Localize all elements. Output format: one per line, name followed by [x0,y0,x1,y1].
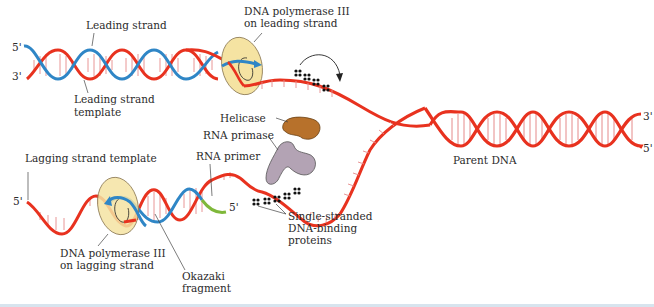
rna-primase-protein [266,142,315,185]
curved-arrow-icon [300,55,340,75]
end-parent-bottom-5prime: 5' [643,142,653,154]
label-pol-lagging-line1: DNA polymerase III [60,247,166,259]
label-leading-template-line1: Leading strand [74,93,155,105]
arrowhead-icon [336,73,343,82]
label-rna-primase: RNA primase [203,129,274,141]
dna-polymerase-leading [216,33,267,98]
label-pol-leading-line2: on leading strand [244,17,338,29]
label-pol-lagging-line2: on lagging strand [60,259,154,271]
label-pol-leading-line1: DNA polymerase III [244,5,350,17]
label-parent-dna: Parent DNA [453,154,517,166]
label-rna-primer: RNA primer [196,150,261,162]
helicase-protein [283,117,320,139]
end-leading-top-5prime: 5' [12,41,22,53]
label-okazaki-line2: fragment [182,282,232,294]
label-ssb-line1: Single-stranded [288,210,373,222]
leading-strand-helix [24,46,228,79]
end-primer-5prime: 5' [229,201,239,213]
label-lagging-template: Lagging strand template [25,152,157,164]
label-helicase: Helicase [220,112,266,124]
parent-dna-helix [425,108,641,148]
label-leading-template-line2: template [74,106,121,118]
dna-polymerase-lagging [92,173,146,238]
label-ssb-line3: proteins [288,234,332,246]
dna-replication-diagram: Leading strand Leading strand template D… [0,0,654,307]
label-leading-strand: Leading strand [86,19,167,31]
end-lagging-5prime: 5' [13,195,23,207]
label-ssb-line2: DNA-binding [288,222,357,234]
end-leading-bottom-3prime: 3' [12,70,22,82]
end-parent-top-3prime: 3' [643,110,653,122]
label-okazaki-line1: Okazaki [182,270,225,282]
